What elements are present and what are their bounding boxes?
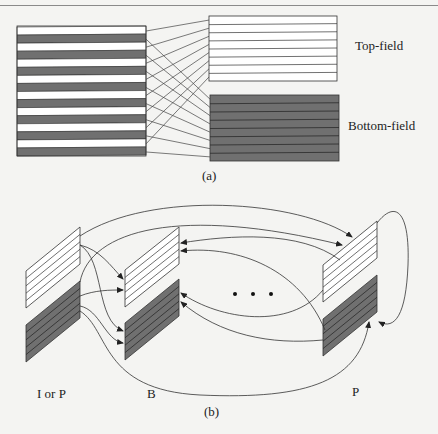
field-mapping-lines [146, 20, 210, 157]
top-field-label: Top-field [355, 38, 403, 54]
bottom-field-label: Bottom-field [348, 118, 415, 134]
caption-a: (a) [202, 168, 216, 184]
frame-b [125, 227, 179, 360]
interlaced-frame [17, 26, 146, 156]
ellipsis-dots [233, 292, 273, 296]
bottom-field-box [210, 95, 339, 161]
frame-i-or-p [26, 227, 80, 362]
field-prediction-diagram [0, 0, 438, 434]
frame-label-b: B [147, 386, 156, 402]
frame-label-i-or-p: I or P [37, 386, 66, 402]
top-field-box [209, 16, 337, 81]
caption-b: (b) [204, 404, 219, 420]
frame-label-p: P [352, 384, 359, 400]
frame-p [323, 221, 377, 356]
